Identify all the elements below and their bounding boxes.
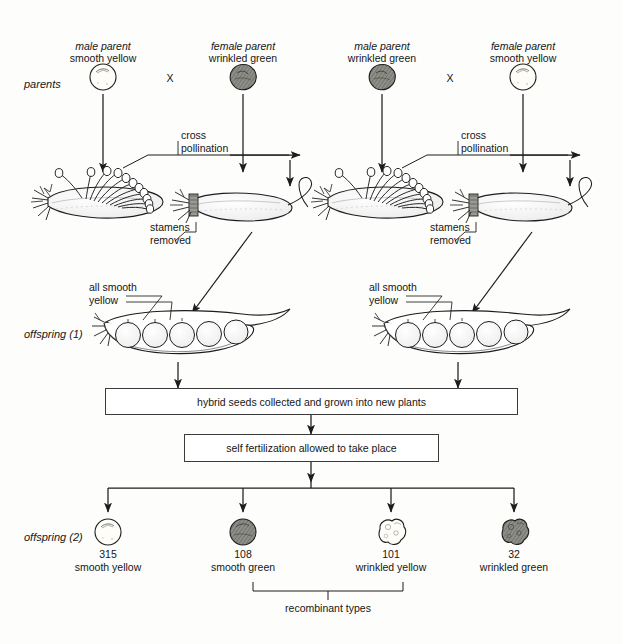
process-box-self-fertilization: self fertilization allowed to take place [184, 434, 439, 462]
mendel-cross-diagram: parents offspring (1) offspring (2) male… [0, 0, 622, 644]
female-parent-role-left: female parent [193, 40, 293, 53]
process-box-hybrid-seeds: hybrid seeds collected and grown into ne… [105, 388, 518, 415]
male-parent-trait-left: smooth yellow [53, 52, 153, 65]
stage-label-parents: parents [24, 78, 61, 90]
seed-result-smooth-green [230, 519, 256, 545]
process-box-hybrid-seeds-text: hybrid seeds collected and grown into ne… [197, 396, 426, 408]
male-parent-role-left: male parent [53, 40, 153, 53]
cross-pollination-label-right: cross pollination [461, 129, 541, 154]
result-count-smooth-yellow: 315 [58, 548, 158, 561]
female-parent-role-right: female parent [473, 40, 573, 53]
cross-pollination-label-left: cross pollination [181, 129, 261, 154]
stage-label-offspring-1: offspring (1) [24, 328, 83, 340]
result-trait-wrinkled-green: wrinkled green [464, 561, 564, 574]
seed-result-wrinkled-green [502, 519, 529, 544]
female-parent-trait-right: smooth yellow [473, 52, 573, 65]
seed-parent-left-female [230, 65, 256, 90]
recombinant-types-label: recombinant types [268, 602, 388, 615]
male-parent-trait-right: wrinkled green [332, 52, 432, 65]
stamens-removed-label-left: stamens removed [150, 221, 230, 246]
female-parent-trait-left: wrinkled green [193, 52, 293, 65]
cross-symbol-left: X [158, 72, 182, 85]
seed-result-smooth-yellow [95, 519, 121, 545]
stamens-removed-label-right: stamens removed [430, 221, 510, 246]
stage-label-offspring-2: offspring (2) [24, 531, 83, 543]
pod-trait-label-left: all smooth yellow [89, 281, 169, 306]
result-count-wrinkled-yellow: 101 [341, 548, 441, 561]
seed-parent-right-female [510, 64, 536, 90]
pod-trait-label-right: all smooth yellow [369, 281, 449, 306]
cross-symbol-right: X [438, 72, 462, 85]
seed-result-wrinkled-yellow [379, 519, 406, 544]
result-count-smooth-green: 108 [193, 548, 293, 561]
process-box-self-fertilization-text: self fertilization allowed to take place [226, 442, 396, 454]
male-parent-role-right: male parent [332, 40, 432, 53]
result-trait-smooth-green: smooth green [193, 561, 293, 574]
result-trait-smooth-yellow: smooth yellow [58, 561, 158, 574]
result-count-wrinkled-green: 32 [464, 548, 564, 561]
result-trait-wrinkled-yellow: wrinkled yellow [341, 561, 441, 574]
seed-parent-right-male [369, 65, 395, 90]
seed-parent-left-male [90, 64, 116, 90]
